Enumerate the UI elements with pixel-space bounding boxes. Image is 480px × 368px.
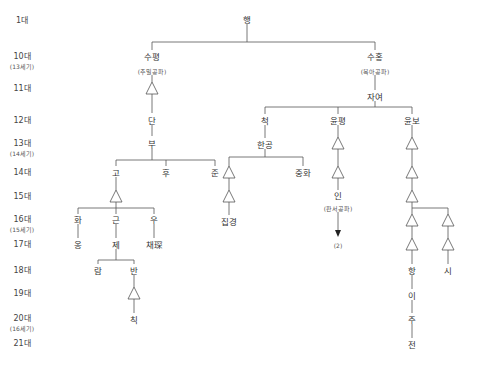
person-supyeong-branch: (추밀공파) bbox=[138, 68, 167, 76]
generation-label: 19대 bbox=[13, 289, 30, 298]
century-label: (14세기) bbox=[10, 150, 34, 158]
person-je: 제 bbox=[112, 240, 120, 250]
unknown-person-triangle-icon bbox=[406, 166, 418, 178]
person-jun: 준 bbox=[211, 168, 219, 178]
generation-label: 14대 bbox=[13, 168, 30, 177]
person-nodes: 행수평(추밀공파)단부고후준화근우옹제채琛람반칙수홍(복아공파)자여척윤평윤보한… bbox=[74, 15, 452, 350]
unknown-person-triangle-icon bbox=[110, 190, 122, 202]
tree-svg: 1대10대(13세기)11대12대13대(14세기)14대15대16대(15세기… bbox=[0, 0, 480, 368]
generation-label: 11대 bbox=[13, 84, 30, 93]
generation-label: 10대 bbox=[13, 52, 30, 61]
unknown-person-triangle-icon bbox=[332, 166, 344, 178]
person-jipgyeong: 집경 bbox=[221, 217, 237, 227]
arrow-down-icon bbox=[335, 230, 341, 237]
person-in: 인 bbox=[334, 191, 342, 201]
unknown-person-triangle-icon bbox=[442, 238, 454, 250]
person-u: 우 bbox=[150, 215, 158, 225]
unknown-person-triangle-icon bbox=[406, 238, 418, 250]
unknown-person-triangle-icon bbox=[406, 137, 418, 149]
person-note-2: (2) bbox=[334, 242, 343, 249]
generation-label: 16대 bbox=[13, 215, 30, 224]
generation-label: 12대 bbox=[13, 116, 30, 125]
person-bu: 부 bbox=[148, 139, 156, 149]
century-label: (16세기) bbox=[10, 325, 34, 333]
person-go: 고 bbox=[112, 168, 120, 178]
generation-label: 20대 bbox=[13, 314, 30, 323]
person-hangong: 한공 bbox=[257, 140, 273, 150]
generation-label: 21대 bbox=[13, 339, 30, 348]
person-supyeong: 수평 bbox=[144, 52, 160, 62]
generation-axis: 1대10대(13세기)11대12대13대(14세기)14대15대16대(15세기… bbox=[10, 16, 34, 348]
generation-label: 18대 bbox=[13, 266, 30, 275]
unknown-person-triangle-icon bbox=[223, 190, 235, 202]
person-jeon: 전 bbox=[408, 340, 416, 350]
generation-label: 13대 bbox=[13, 139, 30, 148]
triangle-markers bbox=[110, 82, 454, 299]
person-hwa: 화 bbox=[74, 215, 82, 225]
person-chik: 칙 bbox=[130, 315, 138, 325]
person-ram: 람 bbox=[94, 266, 102, 276]
person-hang: 항 bbox=[408, 266, 416, 276]
person-suhong-branch: (복아공파) bbox=[361, 68, 390, 76]
person-si: 시 bbox=[444, 266, 452, 276]
person-in-branch: (판서공파) bbox=[324, 205, 353, 213]
person-yunpyeong: 윤평 bbox=[330, 116, 346, 126]
person-dan: 단 bbox=[148, 116, 156, 126]
unknown-person-triangle-icon bbox=[223, 166, 235, 178]
unknown-person-triangle-icon bbox=[332, 137, 344, 149]
person-chae: 채琛 bbox=[146, 240, 163, 250]
person-ban: 반 bbox=[130, 266, 138, 276]
generation-label: 15대 bbox=[13, 192, 30, 201]
generation-label: 1대 bbox=[16, 16, 28, 25]
person-haeng: 행 bbox=[243, 15, 251, 25]
century-label: (13세기) bbox=[10, 63, 34, 71]
person-yunbo: 윤보 bbox=[404, 116, 420, 126]
unknown-person-triangle-icon bbox=[128, 287, 140, 299]
unknown-person-triangle-icon bbox=[406, 214, 418, 226]
person-junghwa: 중화 bbox=[295, 168, 311, 178]
unknown-person-triangle-icon bbox=[406, 190, 418, 202]
unknown-person-triangle-icon bbox=[442, 214, 454, 226]
person-ong: 옹 bbox=[74, 240, 82, 250]
person-suhong: 수홍 bbox=[367, 52, 383, 62]
person-ju: 주 bbox=[408, 315, 416, 325]
generation-label: 17대 bbox=[13, 240, 30, 249]
century-label: (15세기) bbox=[10, 226, 34, 234]
person-cheok: 척 bbox=[261, 116, 269, 126]
person-hu: 후 bbox=[162, 168, 170, 178]
person-jayeo: 자여 bbox=[367, 92, 383, 102]
genealogy-diagram: 1대10대(13세기)11대12대13대(14세기)14대15대16대(15세기… bbox=[0, 0, 480, 368]
person-i: 이 bbox=[408, 291, 416, 301]
person-geun: 근 bbox=[112, 215, 120, 225]
unknown-person-triangle-icon bbox=[146, 82, 158, 94]
